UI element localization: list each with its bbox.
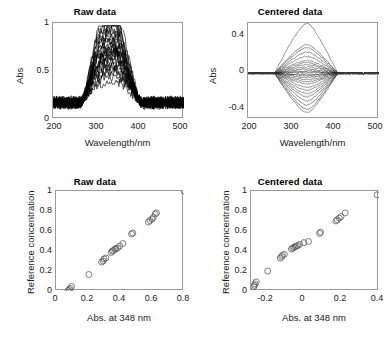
scatter-marker [181, 191, 184, 194]
panel-title-centered-scatter: Centered data [195, 176, 385, 187]
centered-scatter-points [251, 191, 379, 291]
scatter-marker [334, 217, 340, 223]
matlab-figure: Raw data 0 0.5 1 200 300 400 500 Wavelen… [0, 0, 390, 344]
xtick-centered-scatter-2: 0.2 [334, 293, 347, 303]
ytick-raw-spectra-0: 0 [20, 113, 49, 123]
xtick-centered-spectra-3: 500 [367, 121, 382, 131]
xtick-raw-spectra-2: 400 [130, 121, 145, 131]
ytick-raw-spectra-2: 1 [20, 17, 49, 27]
xtick-raw-scatter-2: 0.4 [113, 293, 126, 303]
panel-title-raw-scatter: Raw data [0, 176, 190, 187]
ylabel-centered-scatter: Reference concentration [220, 190, 231, 294]
scatter-marker [342, 210, 348, 216]
xtick-centered-scatter-3: 0.4 [371, 293, 384, 303]
panel-raw-spectra: Raw data 0 0.5 1 200 300 400 500 Wavelen… [0, 4, 195, 172]
xlabel-raw-scatter: Abs. at 348 nm [55, 312, 183, 323]
centered-spectrum-line [248, 73, 379, 113]
plot-area-centered-spectra [247, 22, 378, 118]
xtick-centered-spectra-2: 400 [325, 121, 340, 131]
scatter-marker [86, 272, 92, 278]
spectrum-line [53, 79, 184, 106]
centered-spectrum-line [248, 73, 379, 110]
xtick-raw-spectra-3: 500 [172, 121, 187, 131]
raw-spectra-curves [53, 23, 184, 119]
plot-area-raw-spectra [52, 22, 183, 118]
xtick-raw-spectra-0: 200 [46, 121, 61, 131]
ylabel-centered-spectra: Abs [207, 68, 218, 84]
panel-title-centered-spectra: Centered data [195, 6, 385, 17]
centered-spectrum-line [248, 73, 379, 94]
panel-centered-spectra: Centered data -0.4 0 0.4 200 300 400 500… [195, 4, 390, 172]
xtick-raw-scatter-1: 0.2 [81, 293, 94, 303]
centered-spectrum-line [248, 23, 379, 73]
ylabel-raw-spectra: Abs [14, 68, 25, 84]
centered-spectrum-line [248, 73, 379, 106]
xtick-centered-scatter-0: -0.2 [257, 293, 273, 303]
raw-scatter-points [56, 191, 184, 291]
xtick-centered-scatter-1: 0 [299, 293, 304, 303]
panel-title-raw-spectra: Raw data [0, 6, 190, 17]
panel-centered-scatter: Centered data 0 0.2 0.4 0.6 0.8 1 -0.2 0… [195, 176, 390, 344]
xtick-raw-spectra-1: 300 [88, 121, 103, 131]
xtick-centered-spectra-1: 300 [283, 121, 298, 131]
centered-spectrum-line [248, 73, 379, 97]
xtick-centered-spectra-0: 200 [241, 121, 256, 131]
xtick-raw-scatter-3: 0.6 [145, 293, 158, 303]
centered-spectra-curves [248, 23, 379, 119]
scatter-marker [374, 192, 379, 198]
xlabel-centered-spectra: Wavelength/nm [247, 137, 378, 148]
ytick-centered-spectra-0: -0.4 [211, 102, 244, 112]
xlabel-centered-scatter: Abs. at 348 nm [250, 312, 378, 323]
ytick-centered-spectra-2: 0.4 [211, 29, 244, 39]
xtick-raw-scatter-4: 0.8 [177, 293, 190, 303]
panel-raw-scatter: Raw data 0 0.2 0.4 0.6 0.8 1 0 0.2 0.4 0… [0, 176, 195, 344]
centered-spectrum-line [248, 60, 379, 74]
ylabel-raw-scatter: Reference concentration [25, 190, 36, 294]
plot-area-centered-scatter [250, 190, 378, 290]
xlabel-raw-spectra: Wavelength/nm [52, 137, 183, 148]
scatter-marker [153, 210, 159, 216]
scatter-marker [152, 211, 158, 217]
plot-area-raw-scatter [55, 190, 183, 290]
xtick-raw-scatter-0: 0 [52, 293, 57, 303]
scatter-marker [265, 268, 271, 274]
centered-spectrum-line [248, 52, 379, 74]
